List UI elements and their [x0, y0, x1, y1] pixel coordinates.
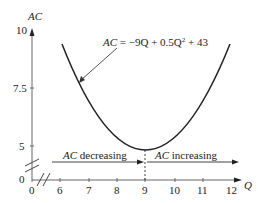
x-axis-label: Q [244, 179, 252, 191]
x-tick-label-11: 11 [197, 184, 208, 196]
ac-curve-chart: AC Q 10 7.5 5 0 0 6 7 8 9 10 11 12 AC = … [0, 0, 258, 203]
y-tick-label-5: 5 [19, 140, 25, 152]
y-axis-arrow-icon [30, 28, 35, 36]
ac-increasing-label: AC increasing [154, 149, 218, 161]
x-axis-arrow-icon [234, 178, 242, 183]
ac-curve [62, 44, 230, 150]
x-tick-label-7: 7 [86, 184, 92, 196]
ac-increasing-text: increasing [169, 149, 217, 161]
x-tick-label-0: 0 [29, 184, 35, 196]
y-tick-label-0: 0 [19, 173, 25, 185]
decreasing-arrowhead-icon [137, 160, 144, 165]
ac-decreasing-label: AC decreasing [62, 149, 127, 161]
y-tick-label-10: 10 [16, 24, 28, 36]
y-axis-label: AC [27, 10, 43, 22]
ac-increasing-symbol: AC [154, 149, 170, 161]
x-tick-label-9: 9 [142, 184, 148, 196]
equation-body: = −9Q + 0.5Q [117, 36, 182, 48]
x-tick-label-10: 10 [169, 184, 181, 196]
ac-decreasing-symbol: AC [62, 149, 78, 161]
x-tick-label-6: 6 [57, 184, 63, 196]
equation-constant: + 43 [185, 36, 208, 48]
y-tick-label-7-5: 7.5 [13, 82, 27, 94]
x-tick-label-8: 8 [114, 184, 120, 196]
equation-label: AC = −9Q + 0.5Q2 + 43 [102, 36, 209, 48]
increasing-arrowhead-icon [232, 160, 239, 165]
ac-decreasing-text: decreasing [77, 149, 127, 161]
x-tick-label-12: 12 [226, 184, 237, 196]
equation-ac: AC [102, 36, 118, 48]
equation-leader-line [80, 48, 117, 81]
